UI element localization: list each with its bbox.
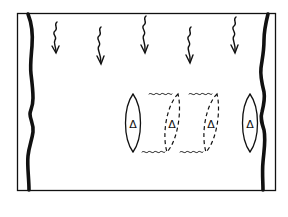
arrow-3: [141, 16, 148, 53]
trail-bottom-1: [142, 151, 165, 152]
object-end: Δ: [243, 94, 258, 152]
frame-border: [18, 14, 276, 191]
diagram-canvas: Δ Δ Δ Δ: [0, 0, 288, 217]
diagram-svg: Δ Δ Δ Δ: [0, 0, 288, 217]
delta-label-end: Δ: [246, 118, 254, 131]
right-wall: [261, 14, 268, 190]
object-start: Δ: [126, 94, 141, 152]
arrow-1: [52, 22, 59, 53]
trail-bottom-2: [180, 151, 203, 152]
object-mid-1: Δ: [165, 94, 180, 152]
trail-top-1: [149, 93, 172, 94]
delta-label-mid-1: Δ: [168, 118, 176, 131]
object-mid-2: Δ: [204, 94, 219, 152]
delta-label-mid-2: Δ: [207, 118, 215, 131]
left-wall: [28, 14, 33, 190]
arrow-4: [186, 27, 193, 63]
arrow-2: [97, 27, 104, 64]
delta-label-start: Δ: [129, 118, 137, 131]
trail-top-2: [189, 93, 212, 94]
arrow-5: [231, 17, 238, 53]
motion-trails: [142, 93, 212, 152]
